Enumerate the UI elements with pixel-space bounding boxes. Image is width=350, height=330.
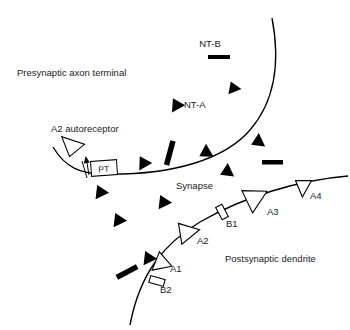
label-synapse: Synapse — [176, 180, 213, 191]
nt-b-molecule-2 — [262, 160, 283, 165]
label-a4: A4 — [310, 190, 322, 201]
label-nt-a: NT-A — [184, 99, 206, 110]
label-a2: A2 — [197, 235, 209, 246]
nt-a-molecule-6 — [217, 163, 234, 182]
nt-a-molecule-8 — [153, 192, 172, 209]
receptor-a2-autoreceptor-glyph[interactable] — [57, 137, 85, 160]
nt-b-molecule-3 — [116, 264, 139, 280]
label-presynaptic-axon-terminal: Presynaptic axon terminal — [17, 67, 126, 78]
nt-a-molecule-7 — [90, 182, 109, 199]
nt-a-molecule-5 — [248, 133, 265, 152]
label-nt-b: NT-B — [199, 38, 221, 49]
label-a2-autoreceptor: A2 autoreceptor — [51, 123, 119, 134]
nt-a-molecule-2 — [166, 95, 185, 113]
nt-a-molecule-1 — [224, 79, 241, 94]
synapse-diagram: NT-B NT-A Presynaptic axon terminal A2 a… — [0, 0, 350, 330]
label-b2: B2 — [160, 284, 172, 295]
nt-b-legend-bar — [208, 55, 230, 59]
pt-arrow-head-icon — [83, 156, 90, 164]
nt-a-molecule-3 — [133, 153, 152, 171]
receptor-a4-glyph[interactable] — [294, 179, 311, 197]
presynaptic-membrane — [53, 18, 276, 174]
diagram-canvas: NT-B NT-A Presynaptic axon terminal A2 a… — [0, 0, 350, 330]
pt-membrane-tick — [82, 161, 87, 178]
label-b1: B1 — [226, 218, 238, 229]
nt-a-molecule-9 — [108, 210, 127, 227]
nt-b-molecule-1 — [164, 140, 176, 166]
label-pt: PT — [98, 164, 110, 175]
label-a3: A3 — [267, 206, 279, 217]
label-a1: A1 — [170, 263, 182, 274]
label-postsynaptic-dendrite: Postsynaptic dendrite — [225, 253, 316, 264]
